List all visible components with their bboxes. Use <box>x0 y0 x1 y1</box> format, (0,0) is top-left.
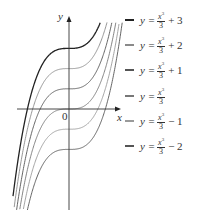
legend-swatch <box>125 19 134 20</box>
legend-swatch <box>125 69 134 70</box>
exponent: 3 <box>162 11 165 16</box>
legend-constant: + 2 <box>168 39 182 51</box>
denominator: 3 <box>159 123 163 131</box>
denominator: 3 <box>159 72 163 80</box>
denominator: 3 <box>159 22 163 30</box>
legend-lhs: y = <box>140 39 155 51</box>
legend-lhs: y = <box>140 64 155 76</box>
fraction: x33 <box>157 60 165 80</box>
curve <box>14 22 107 207</box>
legend-item: y =x33− 2 <box>125 136 183 156</box>
legend-item: y =x33+ 1 <box>125 60 183 80</box>
legend-item: y =x33 <box>125 86 168 106</box>
legend-lhs: y = <box>140 115 155 127</box>
exponent: 3 <box>162 137 165 142</box>
exponent: 3 <box>162 112 165 117</box>
fraction: x33 <box>157 111 165 131</box>
legend-constant: + 1 <box>168 64 182 76</box>
fraction: x33 <box>157 86 165 106</box>
denominator: 3 <box>159 98 163 106</box>
legend-swatch <box>125 95 134 96</box>
fraction: x33 <box>157 35 165 55</box>
denominator: 3 <box>159 47 163 55</box>
legend-lhs: y = <box>140 14 155 26</box>
legend-item: y =x33+ 2 <box>125 35 183 55</box>
y-axis-arrow-icon <box>67 16 72 22</box>
cubic-family-plot <box>0 0 125 214</box>
origin-label: 0 <box>62 110 68 122</box>
curve <box>13 23 100 196</box>
legend-item: y =x33+ 3 <box>125 10 183 30</box>
y-axis-label: y <box>58 10 63 22</box>
exponent: 3 <box>162 61 165 66</box>
legend-swatch <box>125 44 134 45</box>
fraction: x33 <box>157 10 165 30</box>
legend-item: y =x33− 1 <box>125 111 183 131</box>
exponent: 3 <box>162 87 165 92</box>
curve <box>27 23 122 210</box>
denominator: 3 <box>159 148 163 156</box>
exponent: 3 <box>162 36 165 41</box>
legend-constant: − 1 <box>168 115 182 127</box>
legend-swatch <box>125 120 134 121</box>
x-axis-label: x <box>117 111 122 123</box>
legend-swatch <box>125 145 134 146</box>
legend-constant: + 3 <box>168 14 182 26</box>
legend-lhs: y = <box>140 140 155 152</box>
fraction: x33 <box>157 136 165 156</box>
legend-constant: − 2 <box>168 140 182 152</box>
legend-lhs: y = <box>140 90 155 102</box>
